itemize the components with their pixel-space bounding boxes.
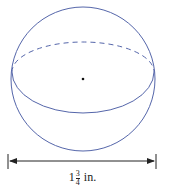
diameter-label: 134 in.: [0, 170, 165, 187]
arrowhead-left-icon: [9, 158, 17, 164]
diameter-fraction: 34: [76, 170, 80, 187]
center-point: [82, 78, 85, 81]
arrowhead-right-icon: [147, 158, 155, 164]
diameter-unit: in.: [84, 170, 96, 184]
diameter-whole: 1: [69, 170, 75, 184]
equator-hidden-arc: [12, 42, 154, 72]
sphere-diagram: [0, 0, 175, 193]
